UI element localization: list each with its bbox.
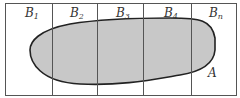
- label-b3: B3: [115, 6, 130, 21]
- label-region-a: A: [207, 66, 217, 80]
- label-b1: B1: [24, 6, 39, 21]
- label-b2: B2: [69, 6, 84, 21]
- partition-diagram: B1 B2 B3 B4 Bn A: [0, 0, 240, 98]
- label-b4: B4: [163, 6, 178, 21]
- region-a-shape: [30, 18, 215, 84]
- label-bn: Bn: [208, 6, 223, 21]
